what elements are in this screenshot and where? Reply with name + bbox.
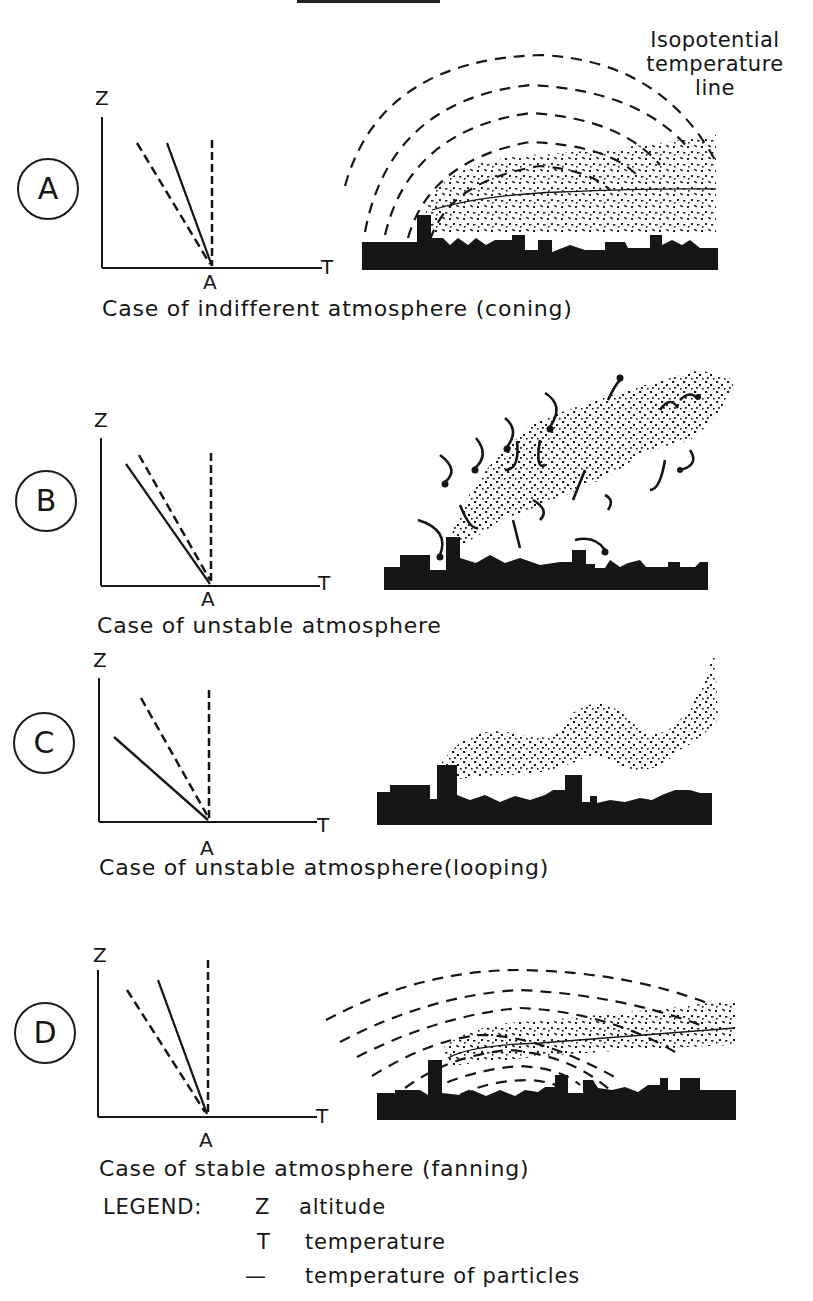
graph-b	[101, 438, 320, 586]
legend-symbol-t: T	[257, 1230, 271, 1254]
graph-a	[102, 117, 322, 268]
scene-a-coning	[345, 55, 718, 270]
legend-label-particle-temperature: temperature of particles	[305, 1264, 580, 1288]
scene-d-fanning	[326, 970, 736, 1120]
diagram-graphics	[0, 0, 813, 1301]
legend-symbol-z: Z	[255, 1195, 270, 1219]
graph-c	[99, 678, 317, 822]
legend-label-temperature: temperature	[305, 1230, 446, 1254]
legend-label-altitude: altitude	[299, 1195, 386, 1219]
legend-symbol-solid-line: —	[245, 1264, 267, 1288]
graph-d	[98, 960, 317, 1117]
scene-b-unstable	[384, 370, 735, 590]
legend-title: LEGEND:	[103, 1195, 202, 1219]
scene-c-looping	[377, 650, 718, 825]
